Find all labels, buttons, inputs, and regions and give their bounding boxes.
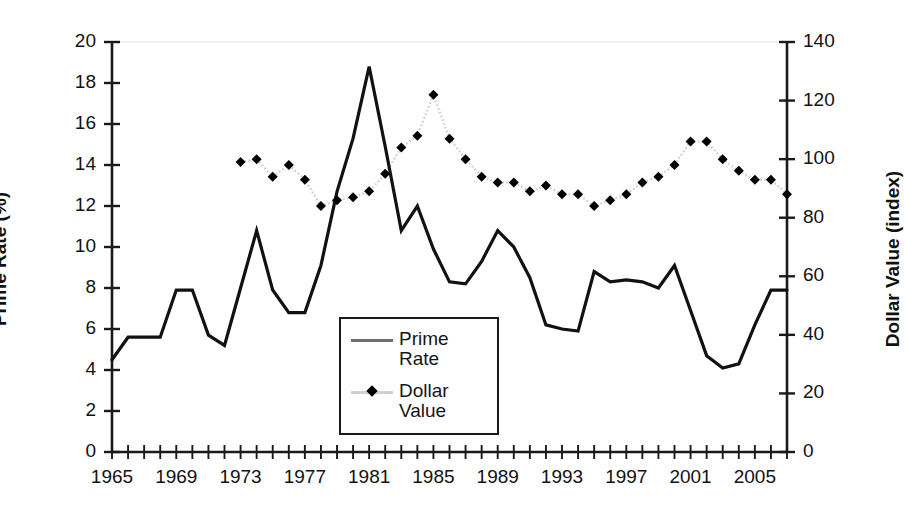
plot-area	[0, 0, 905, 516]
y-axis-left-tick-label: 0	[34, 440, 96, 462]
x-axis-tick-label: 1981	[334, 466, 404, 488]
x-axis-tick-label: 1989	[463, 466, 533, 488]
x-axis-tick-label: 2005	[720, 466, 790, 488]
chart-figure: Prime Rate (%) Dollar Value (index) 0246…	[0, 0, 905, 516]
y-axis-right-tick-label: 40	[803, 323, 863, 345]
y-axis-left-tick-label: 8	[34, 276, 96, 298]
y-axis-left-tick-label: 2	[34, 399, 96, 421]
x-axis-tick-label: 1997	[591, 466, 661, 488]
legend: Prime Rate Dollar Value	[339, 317, 499, 435]
dollar-value-connector-line	[241, 95, 787, 206]
y-axis-left-tick-label: 4	[34, 358, 96, 380]
y-axis-right-tick-label: 100	[803, 147, 863, 169]
x-axis-tick-label: 1965	[77, 466, 147, 488]
y-axis-right-tick-label: 60	[803, 264, 863, 286]
y-axis-left-tick-label: 14	[34, 153, 96, 175]
y-axis-left-tick-label: 12	[34, 194, 96, 216]
y-axis-right-tick-label: 0	[803, 440, 863, 462]
legend-line-swatch-icon	[349, 329, 395, 351]
legend-label-dollar-value: Dollar Value	[399, 381, 449, 421]
x-axis-tick-label: 1985	[398, 466, 468, 488]
x-axis-tick-label: 2001	[656, 466, 726, 488]
y-axis-right-tick-label: 140	[803, 30, 863, 52]
y-axis-right-tick-label: 20	[803, 381, 863, 403]
x-axis-tick-label: 1973	[206, 466, 276, 488]
y-axis-right-tick-label: 80	[803, 206, 863, 228]
dollar-value-markers	[236, 90, 792, 211]
legend-label-prime-rate: Prime Rate	[399, 329, 449, 369]
x-axis-tick-label: 1969	[141, 466, 211, 488]
legend-item-dollar-value: Dollar Value	[349, 381, 449, 421]
y-axis-left-tick-label: 18	[34, 71, 96, 93]
legend-item-prime-rate: Prime Rate	[349, 329, 449, 369]
y-axis-left-tick-label: 6	[34, 317, 96, 339]
y-axis-left-tick-label: 16	[34, 112, 96, 134]
x-axis-tick-label: 1993	[527, 466, 597, 488]
x-axis-tick-label: 1977	[270, 466, 340, 488]
y-axis-left-tick-label: 20	[34, 30, 96, 52]
y-axis-left-tick-label: 10	[34, 235, 96, 257]
y-axis-right-tick-label: 120	[803, 89, 863, 111]
legend-diamond-swatch-icon	[349, 381, 395, 403]
